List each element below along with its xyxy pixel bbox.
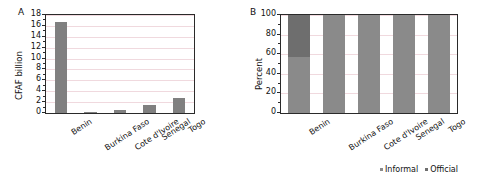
y-axis-minor-tick-mark [278,102,280,103]
x-axis-tick-label: Benin [307,117,331,137]
y-axis-minor-tick-mark [43,107,45,108]
y-axis-tick-label: 100 [258,10,276,18]
y-axis-tick-mark [42,101,45,102]
gridline [46,37,194,38]
figure: A CFAF billion 024681012141618 BeninBurk… [0,0,501,183]
y-axis-minor-tick-mark [43,19,45,20]
y-axis-tick-label: 0 [23,108,41,116]
y-axis-tick-label: 18 [23,10,41,18]
y-axis-tick-mark [277,92,280,93]
bar [323,15,345,113]
bar-segment-informal [323,15,345,113]
y-axis-minor-tick-mark [278,83,280,84]
y-axis-tick-label: 0 [258,108,276,116]
y-axis-tick-label: 2 [23,97,41,105]
y-axis-minor-tick-mark [43,52,45,53]
panel-b-letter: B [250,7,256,17]
y-axis-tick-mark [42,90,45,91]
y-axis-tick-mark [42,58,45,59]
y-axis-tick-mark [42,79,45,80]
bar [393,15,415,113]
gridline [46,48,194,49]
gridline [46,26,194,27]
y-axis-minor-tick-mark [278,43,280,44]
legend-item-informal: Informal [380,165,418,174]
gridline [46,80,194,81]
bar [173,98,185,113]
legend-swatch-informal-icon [380,168,383,171]
y-axis-minor-tick-mark [43,74,45,75]
panel-a-plot-area [45,14,195,114]
bar [84,112,96,113]
y-axis-tick-label: 20 [258,88,276,96]
bar [55,22,67,113]
x-axis-tick-label: Togo [187,117,207,135]
y-axis-tick-label: 8 [23,64,41,72]
y-axis-tick-mark [277,73,280,74]
gridline [46,15,194,16]
y-axis-tick-label: 60 [258,49,276,57]
legend-label-official: Official [430,165,458,174]
panel-b-plot-area [280,14,458,114]
x-axis-tick-label: Togo [447,117,467,135]
x-axis-tick-label: Benin [69,117,93,137]
gridline [46,69,194,70]
y-axis-tick-mark [42,68,45,69]
y-axis-tick-mark [277,34,280,35]
y-axis-tick-mark [42,25,45,26]
panel-b: B Percent 020406080100 BeninBurkina Faso… [248,0,501,183]
y-axis-tick-mark [42,14,45,15]
y-axis-tick-label: 6 [23,75,41,83]
chart-legend: Informal Official [380,165,458,174]
y-axis-tick-label: 80 [258,30,276,38]
y-axis-tick-mark [277,112,280,113]
y-axis-tick-mark [42,112,45,113]
y-axis-tick-label: 12 [23,43,41,51]
bar-segment-official [288,15,310,57]
y-axis-tick-mark [277,14,280,15]
y-axis-minor-tick-mark [43,30,45,31]
y-axis-tick-label: 4 [23,86,41,94]
y-axis-tick-label: 40 [258,69,276,77]
y-axis-tick-mark [277,53,280,54]
y-axis-tick-label: 10 [23,54,41,62]
y-axis-tick-label: 16 [23,21,41,29]
y-axis-minor-tick-mark [43,63,45,64]
y-axis-minor-tick-mark [43,41,45,42]
bar-segment-informal [288,57,310,113]
gridline [46,59,194,60]
legend-label-informal: Informal [385,165,418,174]
y-axis-tick-mark [42,36,45,37]
gridline [46,91,194,92]
bar-segment-informal [358,15,380,113]
legend-item-official: Official [425,165,458,174]
y-axis-minor-tick-mark [278,24,280,25]
bar-segment-informal [428,15,450,113]
y-axis-tick-label: 14 [23,32,41,40]
bar-segment-informal [393,15,415,113]
y-axis-tick-mark [42,47,45,48]
legend-swatch-official-icon [425,168,428,171]
y-axis-minor-tick-mark [43,96,45,97]
y-axis-minor-tick-mark [278,63,280,64]
panel-a: A CFAF billion 024681012141618 BeninBurk… [0,0,250,183]
bar [358,15,380,113]
bar [428,15,450,113]
y-axis-minor-tick-mark [43,85,45,86]
bar [288,15,310,113]
bar [114,110,126,113]
gridline [46,102,194,103]
bar [143,105,155,113]
